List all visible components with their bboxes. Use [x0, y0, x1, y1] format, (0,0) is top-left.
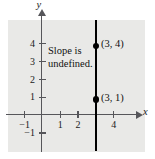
y-axis-line: [41, 14, 42, 152]
y-tick-label: −1: [21, 127, 35, 138]
y-tick-mark: [39, 97, 46, 98]
graph-figure: x y −1 1 2 4 −1 1 2 3 4 (3, 4) (3, 1) Sl…: [0, 0, 155, 159]
y-axis-label: y: [37, 0, 42, 10]
x-tick-label: 2: [70, 119, 86, 130]
slope-annotation-line-2: undefined.: [48, 57, 93, 70]
y-axis-arrow-icon: [38, 9, 46, 16]
y-tick-mark: [39, 61, 46, 62]
data-point-label: (3, 4): [101, 38, 124, 49]
y-tick-label: 2: [21, 74, 35, 85]
x-axis-arrow-icon: [136, 111, 143, 119]
x-axis-line: [6, 114, 138, 115]
x-tick-mark: [113, 111, 114, 118]
x-tick-mark: [60, 111, 61, 118]
vertical-line-series: [95, 20, 97, 151]
x-tick-mark: [77, 111, 78, 118]
y-tick-label: 1: [21, 91, 35, 102]
y-tick-mark: [39, 43, 46, 44]
y-tick-mark: [39, 132, 46, 133]
x-axis-label: x: [143, 106, 148, 117]
data-point-label: (3, 1): [101, 92, 124, 103]
y-tick-label: 3: [21, 56, 35, 67]
y-tick-mark: [39, 79, 46, 80]
x-tick-mark: [24, 111, 25, 118]
x-tick-label: 1: [52, 119, 68, 130]
x-tick-label: 4: [106, 119, 122, 130]
slope-annotation-line-1: Slope is: [48, 44, 93, 57]
slope-annotation: Slope is undefined.: [48, 44, 93, 70]
y-tick-label: 4: [21, 38, 35, 49]
